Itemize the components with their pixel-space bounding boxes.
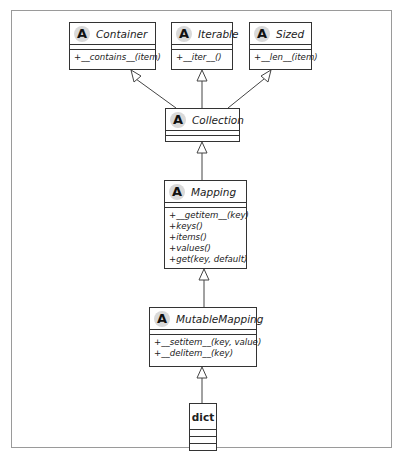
abstract-badge-icon: A (154, 311, 170, 327)
class-header: A Collection (166, 109, 239, 131)
class-mapping[interactable]: A Mapping +__getitem__(key) +keys() +ite… (164, 180, 247, 269)
methods-compartment (190, 437, 216, 444)
method: +__delitem__(key) (154, 348, 252, 359)
methods-compartment: +__getitem__(key) +keys() +items() +valu… (165, 208, 246, 267)
methods-compartment: +__contains__(item) (70, 50, 155, 65)
generalization-arrow-icon (197, 70, 207, 81)
class-header: A Container (70, 23, 155, 45)
method: +__setitem__(key, value) (154, 337, 252, 348)
methods-compartment (166, 136, 239, 140)
generalization-arrow-icon (197, 367, 207, 378)
class-iterable[interactable]: A Iterable +__iter__() (171, 22, 233, 70)
class-header: dict (190, 404, 216, 430)
method: +__contains__(item) (74, 52, 151, 63)
class-name: dict (192, 411, 214, 423)
abstract-badge-icon: A (254, 26, 270, 42)
methods-compartment: +__setitem__(key, value) +__delitem__(ke… (150, 335, 256, 361)
class-collection[interactable]: A Collection (165, 108, 240, 142)
method: +values() (169, 243, 242, 254)
methods-compartment: +__iter__() (172, 50, 232, 65)
method: +items() (169, 232, 242, 243)
class-name: Collection (192, 114, 244, 126)
method: +__iter__() (176, 52, 228, 63)
class-name: MutableMapping (176, 313, 263, 325)
class-sized[interactable]: A Sized +__len__(item) (249, 22, 312, 70)
methods-compartment: +__len__(item) (250, 50, 311, 65)
abstract-badge-icon: A (170, 112, 186, 128)
class-header: A Mapping (165, 181, 246, 203)
class-name: Sized (276, 28, 304, 40)
class-mutablemapping[interactable]: A MutableMapping +__setitem__(key, value… (149, 307, 257, 367)
method: +__getitem__(key) (169, 210, 242, 221)
abstract-badge-icon: A (169, 184, 185, 200)
method: +get(key, default) (169, 254, 242, 265)
class-container[interactable]: A Container +__contains__(item) (69, 22, 156, 70)
class-header: A Sized (250, 23, 311, 45)
generalization-arrow-icon (131, 70, 141, 82)
attributes-compartment (190, 430, 216, 437)
class-name: Iterable (198, 28, 238, 40)
class-dict[interactable]: dict (189, 403, 217, 451)
class-name: Container (96, 28, 147, 40)
method: +keys() (169, 221, 242, 232)
method: +__len__(item) (254, 52, 307, 63)
generalization-arrow-icon (199, 269, 209, 280)
class-header: A MutableMapping (150, 308, 256, 330)
generalization-arrow-icon (197, 142, 207, 153)
abstract-badge-icon: A (176, 26, 192, 42)
abstract-badge-icon: A (74, 26, 90, 42)
class-name: Mapping (191, 186, 236, 198)
class-header: A Iterable (172, 23, 232, 45)
